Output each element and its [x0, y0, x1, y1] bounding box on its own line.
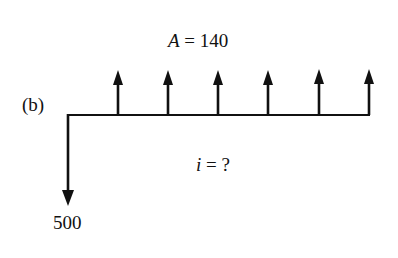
up-arrow-icon [213, 70, 223, 115]
rate-equals: = [201, 154, 221, 175]
up-arrow-icon [113, 70, 123, 115]
part-label: (b) [22, 94, 44, 116]
up-arrow-icon [314, 69, 324, 115]
annuity-equals: = [180, 30, 200, 51]
up-arrow-icon [364, 69, 374, 115]
interest-rate-label: i = ? [196, 154, 230, 176]
annuity-symbol: A [168, 30, 180, 51]
annuity-value: 140 [200, 30, 229, 51]
annuity-label: A = 140 [168, 30, 228, 52]
down-arrow-icon [62, 114, 74, 206]
up-arrow-icon [263, 70, 273, 115]
cash-flow-diagram: A = 140 (b) i = ? 500 [0, 0, 398, 258]
up-arrow-icon [163, 70, 173, 115]
rate-value: ? [222, 154, 230, 175]
present-value-label: 500 [53, 212, 82, 234]
